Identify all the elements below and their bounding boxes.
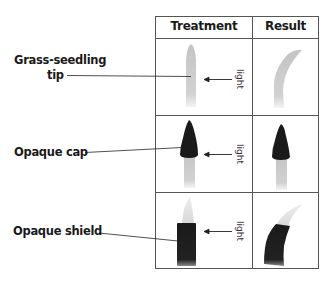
- light-label-row3: light: [235, 221, 245, 241]
- light-label-row1: light: [235, 69, 245, 89]
- label-opaque-shield: Opaque shield: [13, 224, 102, 238]
- seedling-tip-result: [274, 50, 302, 108]
- light-label-row2: light: [235, 144, 245, 164]
- label-grass-seedling: Grass-seedling: [14, 53, 106, 67]
- label-opaque-cap: Opaque cap: [14, 145, 88, 159]
- light-arrows: [204, 77, 232, 234]
- diagram-graphics: [0, 0, 330, 283]
- opaque-shield-result: [264, 204, 302, 266]
- opaque-shield-treatment: [177, 197, 196, 266]
- header-treatment: Treatment: [156, 19, 252, 33]
- opaque-cap-treatment: [180, 120, 198, 188]
- seedling-tip-treatment: [186, 44, 196, 107]
- header-result: Result: [253, 19, 318, 33]
- opaque-cap-result: [272, 124, 290, 190]
- label-tip: tip: [47, 68, 64, 82]
